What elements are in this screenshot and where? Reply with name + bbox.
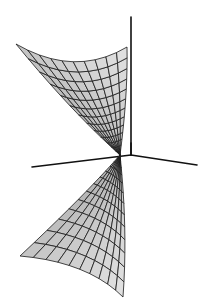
y-axis: [131, 155, 197, 165]
lower-sheet: [20, 155, 125, 297]
wireframe-plot: [0, 0, 220, 305]
figure: Wireframe surface with coordinate axes: [0, 0, 220, 305]
upper-sheet: [16, 44, 127, 155]
